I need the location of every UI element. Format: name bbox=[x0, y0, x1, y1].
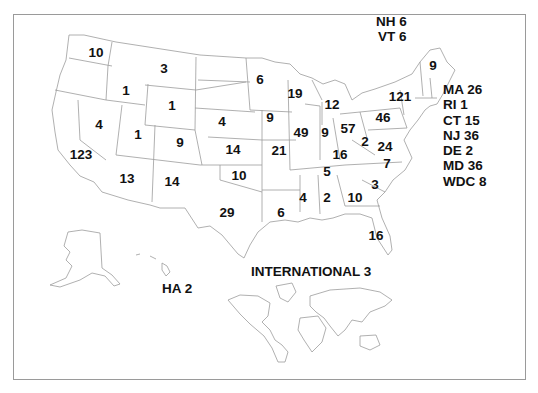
hawaii-label: HA 2 bbox=[162, 282, 192, 296]
world-outline-eurasia bbox=[310, 288, 392, 336]
callout-ri: RI 1 bbox=[443, 97, 487, 112]
state-value-nm: 14 bbox=[164, 175, 179, 189]
state-value-ca: 123 bbox=[70, 148, 93, 162]
world-outline-americas bbox=[228, 295, 288, 362]
state-value-la: 6 bbox=[277, 206, 285, 220]
state-value-id: 1 bbox=[122, 84, 130, 98]
state-value-ny: 121 bbox=[389, 90, 412, 104]
world-outline-greenland bbox=[276, 283, 296, 302]
state-value-nc: 7 bbox=[383, 157, 391, 171]
world-outline-africa bbox=[298, 316, 326, 352]
callout-vt: VT 6 bbox=[378, 30, 407, 44]
us-outline bbox=[52, 35, 455, 258]
hawaii-outline bbox=[136, 254, 170, 276]
state-value-ia: 9 bbox=[266, 111, 274, 125]
state-value-va: 24 bbox=[377, 140, 392, 154]
state-value-wi: 19 bbox=[287, 87, 302, 101]
callout-nj: NJ 36 bbox=[443, 128, 487, 143]
northeast-callouts: MA 26 RI 1 CT 15 NJ 36 DE 2 MD 36 WDC 8 bbox=[443, 82, 487, 189]
state-value-mi: 12 bbox=[324, 98, 339, 112]
state-value-pa: 46 bbox=[375, 111, 390, 125]
callout-nh: NH 6 bbox=[376, 15, 407, 29]
state-value-wy: 1 bbox=[168, 99, 176, 113]
callout-ma: MA 26 bbox=[443, 82, 487, 97]
alaska-outline bbox=[50, 230, 120, 287]
state-value-co: 9 bbox=[176, 136, 184, 150]
state-value-sc: 3 bbox=[371, 178, 379, 192]
state-value-il: 49 bbox=[293, 126, 308, 140]
state-value-ok: 10 bbox=[231, 169, 246, 183]
international-label: INTERNATIONAL 3 bbox=[251, 265, 371, 279]
world-outline-australia bbox=[360, 335, 380, 350]
state-value-al: 2 bbox=[323, 191, 331, 205]
state-value-mo: 21 bbox=[271, 144, 286, 158]
callout-wdc: WDC 8 bbox=[443, 174, 487, 189]
state-value-me: 9 bbox=[429, 59, 437, 73]
state-value-ky: 16 bbox=[332, 148, 347, 162]
state-value-in: 9 bbox=[321, 126, 329, 140]
state-value-tn: 5 bbox=[323, 165, 331, 179]
callout-md: MD 36 bbox=[443, 158, 487, 173]
state-value-az: 13 bbox=[119, 172, 134, 186]
state-value-mt: 3 bbox=[160, 62, 168, 76]
state-value-wv: 2 bbox=[361, 135, 369, 149]
state-value-wa: 10 bbox=[88, 46, 103, 60]
us-map-outline bbox=[0, 0, 538, 393]
state-value-nv: 4 bbox=[95, 118, 103, 132]
callout-ct: CT 15 bbox=[443, 113, 487, 128]
state-value-fl: 16 bbox=[368, 229, 383, 243]
state-value-ne: 4 bbox=[218, 115, 226, 129]
state-value-ks: 14 bbox=[225, 143, 240, 157]
callout-de: DE 2 bbox=[443, 143, 487, 158]
state-value-oh: 57 bbox=[340, 122, 355, 136]
state-value-ut: 1 bbox=[134, 128, 142, 142]
state-value-tx: 29 bbox=[219, 206, 234, 220]
state-value-ms: 4 bbox=[299, 191, 307, 205]
state-value-ga: 10 bbox=[347, 191, 362, 205]
state-value-nd: 6 bbox=[256, 73, 264, 87]
